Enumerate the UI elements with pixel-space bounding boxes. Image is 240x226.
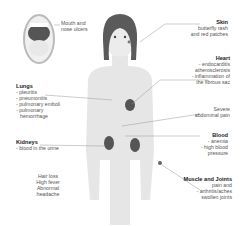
label-kidneys: Kidneys - blood in the urine — [16, 139, 59, 151]
label-line: and red patches — [191, 31, 228, 37]
label-line: swollen joints — [201, 194, 232, 200]
label-blood: Blood - anemia - high blood pressure — [201, 132, 228, 156]
label-line: abdominal pain — [195, 112, 230, 118]
human-figure — [86, 14, 162, 225]
label-line: headache — [37, 191, 60, 197]
label-lungs: Lungs - pleuritis - pneumonitis - pulmon… — [16, 83, 60, 119]
label-line: nose ulcers — [61, 26, 88, 32]
label-skin: Skin butterfly rash and red patches — [191, 19, 228, 37]
label-heart: Heart - endocarditis atherosclerosis - i… — [192, 55, 230, 85]
label-mouth: Mouth and nose ulcers — [61, 20, 88, 32]
label-general-symptoms: Hair loss High fever Abnormal headache — [28, 173, 68, 197]
label-line: the fibrous sac — [196, 79, 230, 85]
label-muscle-joints: Muscle and Joints pain and - arthritis/a… — [184, 176, 233, 200]
label-line: hemorrhage — [16, 113, 48, 119]
label-line: - blood in the urine — [16, 145, 59, 151]
label-line: pressure — [208, 150, 228, 156]
mouth-icon — [24, 15, 54, 63]
label-abdomen: Severe abdominal pain — [195, 106, 230, 118]
